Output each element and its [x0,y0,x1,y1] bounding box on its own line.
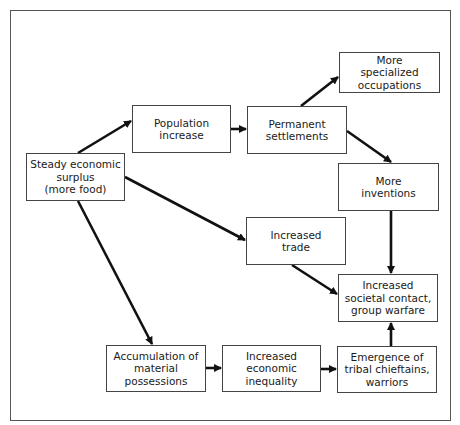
node-population-increase: Population increase [132,105,231,153]
node-increased-economic-inequality: Increased economic inequality [222,345,321,392]
node-label: Accumulation of material possessions [110,350,202,388]
node-label: Increased trade [270,229,321,254]
node-label: Population increase [154,117,209,142]
arrow-settlements-to-inventions [347,131,391,162]
node-label: Increased societal contact, group warfar… [345,279,431,317]
node-label: Steady economic surplus (more food) [30,158,121,196]
arrow-surplus-to-population [78,121,131,153]
node-more-specialized-occupations: More specialized occupations [339,52,440,93]
arrow-surplus-to-accumulation [78,201,152,344]
arrow-settlements-to-specialized [301,77,338,106]
node-accumulation-of-possessions: Accumulation of material possessions [106,345,206,392]
node-label: Increased economic inequality [226,350,317,388]
node-steady-economic-surplus: Steady economic surplus (more food) [26,153,125,201]
node-label: More specialized occupations [358,54,421,92]
node-label: Emergence of tribal chieftains, warriors [345,351,430,389]
node-label: More inventions [361,175,415,200]
node-emergence-of-chieftains: Emergence of tribal chieftains, warriors [337,346,437,393]
node-label: Permanent settlements [266,118,328,143]
arrow-surplus-to-trade [125,177,245,240]
arrow-trade-to-contact [292,265,337,294]
node-permanent-settlements: Permanent settlements [247,106,347,154]
diagram-canvas: Steady economic surplus (more food) Popu… [0,0,460,425]
node-increased-societal-contact: Increased societal contact, group warfar… [338,274,438,322]
node-more-inventions: More inventions [338,163,439,211]
node-increased-trade: Increased trade [246,217,346,265]
